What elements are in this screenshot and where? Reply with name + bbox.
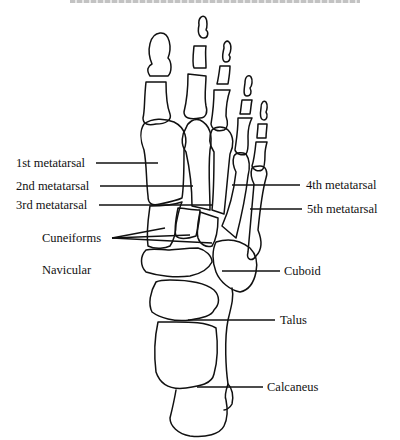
navicular-bone: [142, 248, 213, 277]
label-navicular: Navicular: [42, 263, 91, 277]
third-toe-phalanges: [211, 41, 231, 131]
label-1st-metatarsal: 1st metatarsal: [16, 156, 85, 170]
label-2nd-metatarsal: 2nd metatarsal: [16, 179, 89, 193]
hallux-phalanges: [143, 33, 171, 125]
foot-skeleton-drawing: [0, 0, 400, 440]
label-3rd-metatarsal: 3rd metatarsal: [16, 198, 87, 212]
fifth-toe-phalanges: [252, 101, 267, 171]
foot-bones-diagram: 1st metatarsal 2nd metatarsal 3rd metata…: [0, 0, 400, 440]
leader-lines: [96, 163, 302, 387]
second-toe-phalanges: [184, 16, 208, 118]
label-talus: Talus: [280, 313, 307, 327]
label-calcaneus: Calcaneus: [267, 380, 318, 394]
fifth-metatarsal-bone: [248, 166, 267, 259]
label-5th-metatarsal: 5th metatarsal: [307, 202, 377, 216]
label-cuboid: Cuboid: [284, 264, 321, 278]
fourth-toe-phalanges: [235, 76, 252, 155]
cuboid-bone: [213, 240, 257, 292]
label-4th-metatarsal: 4th metatarsal: [306, 178, 376, 192]
label-cuneiforms: Cuneiforms: [42, 231, 101, 245]
first-metatarsal-bone: [141, 119, 186, 205]
second-metatarsal-bone: [182, 119, 211, 210]
talus-bone: [150, 280, 219, 388]
calcaneus-bone: [170, 288, 233, 437]
third-metatarsal-bone: [210, 127, 233, 214]
